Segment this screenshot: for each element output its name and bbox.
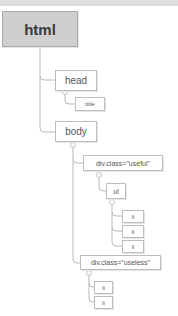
collapse-toggle-icon bbox=[97, 173, 102, 178]
node-li[interactable]: li bbox=[122, 225, 144, 238]
node-li[interactable]: li bbox=[122, 210, 144, 223]
node-ul[interactable]: ul bbox=[106, 183, 126, 199]
node-html[interactable]: html bbox=[2, 11, 78, 47]
node-li[interactable]: li bbox=[122, 240, 144, 253]
node-title[interactable]: title bbox=[75, 97, 105, 111]
node-div-useless[interactable]: div.class="useless" bbox=[80, 255, 161, 270]
collapse-toggle-icon bbox=[71, 143, 76, 148]
node-div-useful[interactable]: div.class="useful" bbox=[83, 155, 163, 171]
collapse-toggle-icon bbox=[87, 271, 92, 276]
node-body[interactable]: body bbox=[55, 121, 97, 142]
node-head[interactable]: head bbox=[55, 70, 97, 91]
collapse-toggle-icon bbox=[110, 200, 115, 205]
node-li[interactable]: li bbox=[94, 281, 113, 294]
node-li[interactable]: li bbox=[94, 296, 113, 309]
